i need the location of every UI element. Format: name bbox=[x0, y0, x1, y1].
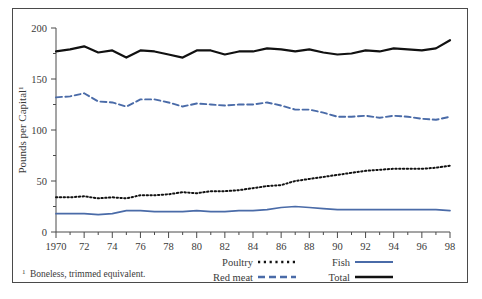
y-tick-label: 150 bbox=[31, 74, 47, 85]
legend-item-poultry[interactable]: Poultry bbox=[222, 257, 296, 268]
legend-label-poultry: Poultry bbox=[222, 257, 254, 268]
legend-item-total[interactable]: Total bbox=[329, 272, 393, 283]
chart-canvas: 050100150200Pounds per Capital1197072747… bbox=[0, 0, 482, 299]
x-tick-label: 84 bbox=[248, 241, 259, 252]
x-tick-label: 80 bbox=[191, 241, 202, 252]
x-tick-label: 76 bbox=[135, 241, 146, 252]
footnote-marker: 1 bbox=[22, 268, 26, 276]
x-tick-label: 98 bbox=[445, 241, 456, 252]
x-tick-label: 1970 bbox=[46, 241, 67, 252]
x-tick-label: 92 bbox=[360, 241, 371, 252]
y-tick-label: 100 bbox=[31, 125, 47, 136]
series-line-total bbox=[56, 40, 450, 57]
y-axis-title-group: Pounds per Capital1 bbox=[16, 86, 28, 174]
footnote: 1 Boneless, trimmed equivalent. bbox=[22, 268, 145, 280]
x-tick-label: 88 bbox=[304, 241, 315, 252]
y-tick-label: 50 bbox=[37, 176, 48, 187]
series-line-fish bbox=[56, 207, 450, 215]
x-tick-label: 78 bbox=[163, 241, 174, 252]
x-tick-label: 82 bbox=[220, 241, 231, 252]
legend-label-fish: Fish bbox=[332, 257, 351, 268]
series-line-red-meat bbox=[56, 93, 450, 120]
chart-screenshot: 050100150200Pounds per Capital1197072747… bbox=[0, 0, 482, 299]
x-tick-label: 72 bbox=[79, 241, 90, 252]
legend-item-red-meat[interactable]: Red meat bbox=[213, 272, 296, 283]
x-tick-label: 90 bbox=[332, 241, 343, 252]
x-tick-label: 74 bbox=[107, 241, 118, 252]
x-tick-label: 94 bbox=[388, 241, 399, 252]
series-line-poultry bbox=[56, 166, 450, 199]
y-axis-title: Pounds per Capital1 bbox=[16, 86, 28, 174]
footnote-text: Boneless, trimmed equivalent. bbox=[28, 269, 146, 279]
y-tick-label: 200 bbox=[31, 23, 47, 34]
x-tick-label: 86 bbox=[276, 241, 287, 252]
y-tick-label: 0 bbox=[42, 227, 47, 238]
y-axis-title-superscript: 1 bbox=[17, 86, 25, 90]
legend-item-fish[interactable]: Fish bbox=[332, 257, 393, 268]
legend-label-total: Total bbox=[329, 272, 351, 283]
legend-label-red-meat: Red meat bbox=[213, 272, 253, 283]
x-tick-label: 96 bbox=[417, 241, 428, 252]
line-chart-svg: 050100150200Pounds per Capital1197072747… bbox=[0, 0, 482, 299]
